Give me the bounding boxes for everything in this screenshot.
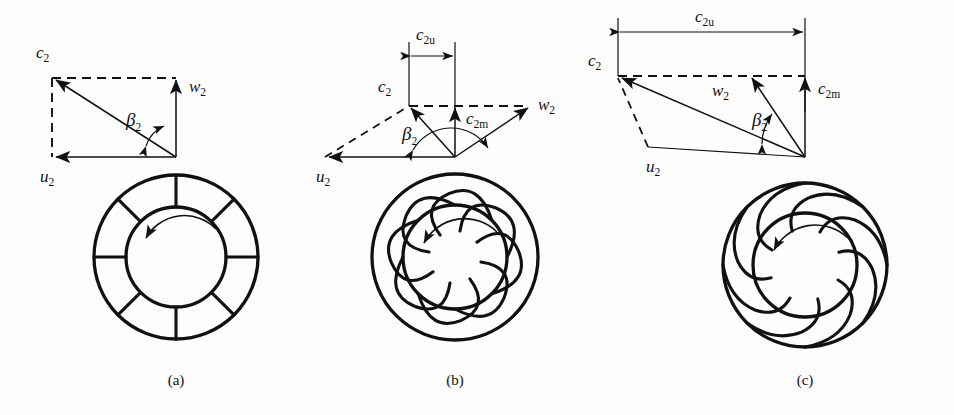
rotation-arrow-a (146, 216, 216, 238)
caption-c: (c) (775, 372, 835, 389)
label-c2-c: c2 (588, 51, 602, 72)
panel-a: c2 w2 u2 β2 (36, 43, 258, 339)
label-w2-a: w2 (189, 77, 206, 98)
panel-c: c2u c2 c2m w2 u2 β2 (588, 7, 896, 356)
blades-c (714, 174, 897, 357)
c2-construction-c (618, 78, 648, 147)
blade-a-6 (118, 292, 141, 315)
velocity-triangle-figure: c2 w2 u2 β2 (0, 0, 954, 415)
label-c2u-b: c2u (416, 25, 435, 46)
blade-a-2 (211, 199, 234, 222)
c2-construction-b (325, 106, 409, 157)
caption-a: (a) (146, 372, 206, 389)
impeller-c (714, 174, 897, 357)
velocity-triangle-c: c2u c2 c2m w2 u2 β2 (588, 7, 840, 178)
label-beta2-a: β2 (125, 109, 141, 133)
label-w2-c: w2 (712, 81, 729, 102)
caption-b: (b) (425, 372, 485, 389)
label-beta2-b: β2 (401, 123, 417, 147)
label-c2u-c: c2u (695, 7, 714, 28)
blade-a-8 (118, 199, 141, 222)
label-c2-a: c2 (36, 43, 50, 64)
label-w2-b: w2 (538, 95, 555, 116)
label-u2-c: u2 (646, 157, 661, 178)
label-c2m-c: c2m (818, 79, 840, 100)
label-c2-b: c2 (378, 77, 392, 98)
impeller-outer-rim-b (372, 174, 538, 340)
blades-b (376, 178, 534, 336)
label-beta2-c: β2 (751, 109, 767, 133)
velocity-triangle-b: c2u c2 c2m w2 u2 β2 (316, 25, 555, 188)
figure-canvas: c2 w2 u2 β2 (0, 0, 954, 415)
blade-a-4 (211, 292, 234, 315)
impeller-b (372, 174, 538, 340)
impeller-inner-rim-c (753, 213, 857, 317)
u2-vector-c (648, 147, 805, 157)
label-u2-a: u2 (40, 167, 55, 188)
panel-b: c2u c2 c2m w2 u2 β2 (316, 25, 555, 340)
impeller-a (94, 175, 258, 339)
velocity-triangle-a: c2 w2 u2 β2 (36, 43, 206, 188)
label-u2-b: u2 (316, 167, 331, 188)
label-c2m-b: c2m (466, 109, 488, 130)
rotation-arrow-c (774, 225, 848, 250)
c2-vector-a (56, 80, 176, 157)
beta2-angle-arc-b (413, 128, 488, 150)
